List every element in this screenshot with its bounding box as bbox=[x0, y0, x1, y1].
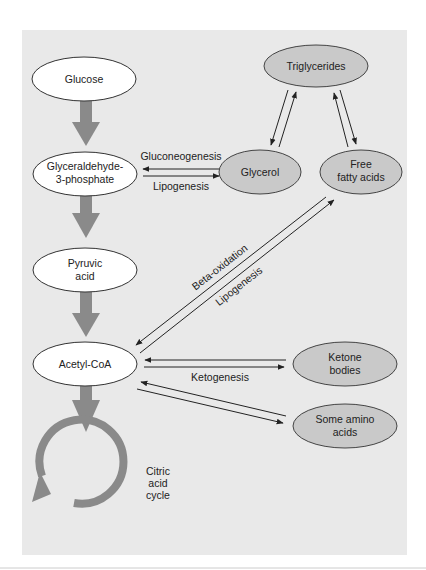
svg-text:Acetyl-CoA: Acetyl-CoA bbox=[59, 358, 112, 370]
node-ketone-bodies: Ketone bodies bbox=[293, 342, 397, 386]
svg-text:acids: acids bbox=[333, 426, 358, 438]
svg-text:Glycerol: Glycerol bbox=[241, 166, 280, 178]
diagram-panel bbox=[22, 30, 407, 555]
label-ketogenesis: Ketogenesis bbox=[191, 371, 249, 383]
svg-text:Free: Free bbox=[350, 158, 372, 170]
label-citric: Citric bbox=[146, 465, 170, 477]
label-gluconeogenesis: Gluconeogenesis bbox=[140, 150, 221, 162]
node-acetyl-coa: Acetyl-CoA bbox=[33, 342, 137, 386]
svg-text:acid: acid bbox=[75, 270, 94, 282]
label-lipogenesis-glycerol: Lipogenesis bbox=[153, 180, 209, 192]
label-cycle: cycle bbox=[146, 489, 170, 501]
svg-text:fatty acids: fatty acids bbox=[337, 171, 384, 183]
node-triglycerides: Triglycerides bbox=[264, 45, 368, 87]
svg-text:Triglycerides: Triglycerides bbox=[286, 60, 345, 72]
svg-text:Pyruvic: Pyruvic bbox=[68, 257, 102, 269]
svg-text:Ketone: Ketone bbox=[328, 351, 361, 363]
svg-text:Glucose: Glucose bbox=[65, 73, 104, 85]
node-free-fatty-acids: Free fatty acids bbox=[320, 150, 402, 194]
node-glyceraldehyde-3-phosphate: Glyceraldehyde- 3-phosphate bbox=[33, 152, 137, 196]
metabolism-diagram: Glucose Glyceraldehyde- 3-phosphate Pyru… bbox=[0, 0, 426, 570]
svg-text:Some amino: Some amino bbox=[316, 413, 375, 425]
node-glucose: Glucose bbox=[32, 57, 136, 101]
label-acid: acid bbox=[148, 477, 167, 489]
node-pyruvic-acid: Pyruvic acid bbox=[33, 248, 137, 292]
svg-text:Glyceraldehyde-: Glyceraldehyde- bbox=[47, 160, 124, 172]
svg-text:3-phosphate: 3-phosphate bbox=[56, 173, 115, 185]
node-glycerol: Glycerol bbox=[219, 150, 301, 194]
svg-text:bodies: bodies bbox=[330, 364, 361, 376]
node-some-amino-acids: Some amino acids bbox=[293, 404, 397, 448]
